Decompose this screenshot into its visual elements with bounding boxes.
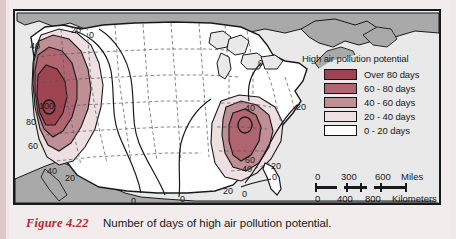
scalebar-graphic xyxy=(315,183,407,192)
figure-number: Figure 4.22 xyxy=(26,216,89,230)
svg-text:20: 20 xyxy=(271,161,281,171)
legend-swatch-0-20 xyxy=(324,125,357,136)
page-right-margin xyxy=(451,0,456,239)
svg-text:0: 0 xyxy=(242,189,247,199)
miles-tick-600: 600 xyxy=(375,171,391,182)
kilometers-tick-400: 400 xyxy=(337,193,353,204)
svg-text:0: 0 xyxy=(89,30,94,40)
svg-text:20: 20 xyxy=(71,25,81,35)
kilometers-tick-0: 0 xyxy=(315,193,320,204)
legend-swatch-20-40 xyxy=(324,111,357,122)
svg-text:80: 80 xyxy=(26,117,36,127)
legend-label-40-60: 40 - 60 days xyxy=(364,97,415,108)
figure-caption-text: Number of days of high air pollution pot… xyxy=(103,217,331,229)
legend-swatch-60-80 xyxy=(324,83,357,94)
scalebar-gap-1 xyxy=(337,186,344,189)
svg-text:40: 40 xyxy=(30,41,40,51)
miles-tick-0: 0 xyxy=(315,171,320,182)
legend-swatch-40-60 xyxy=(324,97,357,108)
scalebar-tick-start xyxy=(315,183,317,192)
svg-text:0: 0 xyxy=(272,172,277,182)
scalebar-tick-end xyxy=(405,183,407,192)
miles-unit-label: Miles xyxy=(401,171,423,182)
legend-label-0-20: 0 - 20 days xyxy=(364,125,410,136)
legend-title: High air pollution potential xyxy=(302,53,441,64)
svg-text:100: 100 xyxy=(39,101,54,111)
legend-item-60-80: 60 - 80 days xyxy=(302,81,441,95)
miles-tick-300: 300 xyxy=(341,171,357,182)
legend-label-20-40: 20 - 40 days xyxy=(364,111,415,122)
scalebar-tick-mid-1 xyxy=(346,183,348,192)
svg-text:0: 0 xyxy=(180,194,185,203)
svg-text:40: 40 xyxy=(245,103,255,113)
svg-text:60: 60 xyxy=(28,141,38,151)
page-background: 20 0 40 100 80 60 40 20 0 0 20 0 0 20 40… xyxy=(0,0,456,239)
legend-label-over-80: Over 80 days xyxy=(364,69,419,80)
svg-text:20: 20 xyxy=(65,173,75,183)
svg-text:0: 0 xyxy=(131,196,136,203)
svg-text:40: 40 xyxy=(242,164,252,174)
kilometers-tick-800: 800 xyxy=(365,193,381,204)
legend-item-0-20: 0 - 20 days xyxy=(302,124,441,138)
svg-text:0: 0 xyxy=(258,58,263,68)
scalebar-gap-2 xyxy=(367,186,374,189)
legend-item-40-60: 40 - 60 days xyxy=(302,95,441,109)
svg-text:40: 40 xyxy=(47,166,57,176)
scalebar-tick-mid-3 xyxy=(380,183,382,192)
svg-text:20: 20 xyxy=(223,186,233,196)
legend-item-20-40: 20 - 40 days xyxy=(302,110,441,124)
legend-item-over-80: Over 80 days xyxy=(302,67,441,81)
figure-caption: Figure 4.22 Number of days of high air p… xyxy=(26,213,332,231)
contour-core-60-east xyxy=(238,117,252,133)
kilometers-unit-label: Kilometers xyxy=(392,193,437,204)
legend-swatch-over-80 xyxy=(324,69,357,80)
map-legend: High air pollution potential Over 80 day… xyxy=(302,53,441,138)
figure-frame: 20 0 40 100 80 60 40 20 0 0 20 0 0 20 40… xyxy=(13,9,441,205)
miles-tick-row: 0 300 600 Miles xyxy=(315,171,441,183)
map-scalebars: 0 300 600 Miles 0 400 800 Kilometers xyxy=(315,171,441,205)
legend-label-60-80: 60 - 80 days xyxy=(364,83,415,94)
scalebar-tick-mid-2 xyxy=(360,183,362,192)
kilometers-tick-row: 0 400 800 Kilometers xyxy=(315,193,441,205)
page-gutter xyxy=(6,0,9,239)
